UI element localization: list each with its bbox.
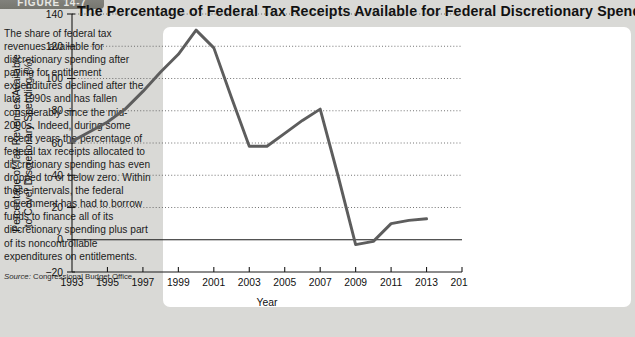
chart-svg: −20020406080100120140 199319951997199920…	[0, 0, 468, 310]
y-tick-label: −20	[46, 267, 64, 278]
x-tick-label: 2009	[344, 277, 367, 288]
x-tick-label: 1993	[61, 277, 84, 288]
y-tick-label: 140	[46, 9, 63, 20]
y-tick-label: 40	[52, 170, 64, 181]
x-tick-label: 2003	[238, 277, 261, 288]
y-tick-label: 60	[52, 138, 64, 149]
x-tick-label: 2015	[451, 277, 468, 288]
x-axis-ticks: 1993199519971999200120032005200720092011…	[61, 267, 468, 288]
y-tick-label: 100	[46, 73, 63, 84]
x-tick-label: 2001	[202, 277, 225, 288]
grid-lines	[72, 14, 462, 208]
y-tick-label: 0	[57, 234, 63, 245]
y-axis-ticks: −20020406080100120140	[46, 9, 75, 278]
y-tick-label: 80	[52, 105, 64, 116]
x-tick-label: 1995	[96, 277, 119, 288]
y-tick-label: 20	[52, 202, 64, 213]
y-tick-label: 120	[46, 41, 63, 52]
x-tick-label: 1997	[131, 277, 154, 288]
data-series-line	[72, 30, 427, 244]
y-axis-title-line1: Percentage of Tax Revenues Available	[11, 54, 22, 232]
x-tick-label: 2013	[415, 277, 438, 288]
x-axis-title: Year	[257, 297, 279, 308]
line-chart: −20020406080100120140 199319951997199920…	[0, 0, 468, 310]
x-tick-label: 2007	[309, 277, 332, 288]
y-axis-title-line2: to Cover Discretionary Spending (%)	[23, 59, 34, 228]
x-tick-label: 2005	[273, 277, 296, 288]
x-tick-label: 2011	[380, 277, 402, 288]
x-tick-label: 1999	[167, 277, 190, 288]
